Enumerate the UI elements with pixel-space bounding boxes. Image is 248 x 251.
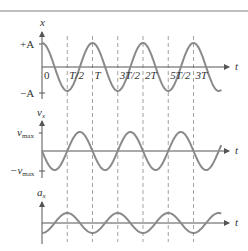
time-tick-labels: 0T/2T3T/22T5T/23T [44,69,208,81]
time-tick-label: 3T/2 [119,69,141,81]
time-tick-label: 3T [195,69,209,81]
time-tick-label: 5T/2 [170,69,191,81]
shm-figure: x t +A −A 0T/2T3T/22T5T/23T vx t vmax −v… [0,0,248,251]
neg-label-A: −A [20,87,34,99]
time-tick-label: T/2 [69,69,84,81]
y-label-x: x [39,16,45,28]
velocity-panel: vx t vmax −vmax [10,106,239,178]
pos-label-A: +A [20,38,34,50]
neg-label-vmax: −vmax [10,164,35,178]
y-label-vx: vx [37,106,46,120]
time-tick-label: 2T [145,69,158,81]
pos-label-vmax: vmax [17,126,34,140]
y-label-ax: ax [37,186,47,200]
time-tick-label: T [95,69,102,81]
t-label-3: t [235,216,239,228]
t-label-2: t [235,144,239,156]
t-label-1: t [235,60,239,72]
position-panel: x t +A −A 0T/2T3T/22T5T/23T [20,16,239,99]
time-tick-label: 0 [44,69,50,81]
